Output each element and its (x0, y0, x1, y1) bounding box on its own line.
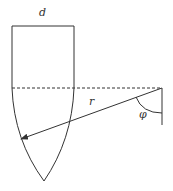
label-d: d (39, 7, 46, 18)
label-r: r (89, 96, 94, 107)
diagram-svg (0, 0, 173, 191)
diagram-canvas: d r φ (0, 0, 173, 191)
label-phi: φ (139, 109, 147, 120)
body-outline (12, 26, 74, 181)
